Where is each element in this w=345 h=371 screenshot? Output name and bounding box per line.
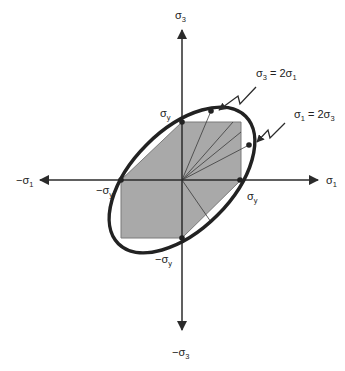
axis-label-sigma3: σ3	[175, 9, 186, 24]
annotation-s3-eq-2s1: σ3 = 2σ1	[256, 67, 297, 82]
squiggle-arrow-icon	[219, 87, 256, 110]
yield-criteria-diagram: σ3 −σ3 σ1 −σ1 σy σy −σy −σy σ3 = 2σ1 σ1 …	[0, 0, 345, 371]
label-sigma-y-right: σy	[247, 190, 258, 205]
label-sigma-y-top: σy	[160, 107, 171, 122]
squiggle-arrow-icon	[257, 123, 285, 142]
label-neg-sigma-y-left: −σy	[96, 184, 113, 199]
label-neg-sigma-y-bottom: −σy	[155, 253, 172, 268]
axis-label-neg-sigma3: −σ3	[172, 346, 189, 361]
axis-label-sigma1: σ1	[326, 174, 337, 189]
annotation-s1-eq-2s3: σ1 = 2σ3	[294, 108, 335, 123]
axis-label-neg-sigma1: −σ1	[16, 174, 33, 189]
